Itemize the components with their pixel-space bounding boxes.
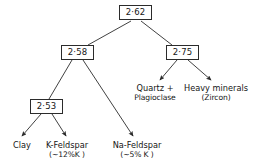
edge-right-to-heavy-minerals bbox=[188, 60, 211, 80]
node-root-2-62[interactable]: 2·62 bbox=[119, 5, 152, 20]
leaf-heavy-minerals-label: Heavy minerals bbox=[184, 83, 248, 93]
edge-root-to-left bbox=[88, 21, 131, 45]
edge-leftleft-to-clay bbox=[22, 114, 41, 136]
edge-right-to-quartz-plagioclase bbox=[160, 60, 177, 80]
leaf-na-feldspar[interactable]: Na-Feldspar (~5% K ) bbox=[104, 140, 170, 160]
leaf-k-feldspar-sublabel: (~12%K ) bbox=[36, 150, 98, 160]
leaf-k-feldspar-label: K-Feldspar bbox=[46, 140, 88, 150]
leaf-heavy-minerals-sublabel: (Zircon) bbox=[180, 93, 252, 103]
edge-root-to-right bbox=[141, 21, 172, 45]
leaf-quartz-plagioclase-label: Quartz + bbox=[137, 83, 174, 93]
edge-left-to-leftleft bbox=[49, 60, 72, 99]
leaf-heavy-minerals[interactable]: Heavy minerals (Zircon) bbox=[180, 83, 252, 103]
leaf-na-feldspar-label: Na-Feldspar bbox=[113, 140, 162, 150]
leaf-quartz-plagioclase[interactable]: Quartz + Plagioclase bbox=[122, 83, 188, 103]
node-right-2-75[interactable]: 2·75 bbox=[166, 45, 199, 60]
node-left-2-58[interactable]: 2·58 bbox=[61, 45, 94, 60]
leaf-k-feldspar[interactable]: K-Feldspar (~12%K ) bbox=[36, 140, 98, 160]
leaf-quartz-plagioclase-sublabel: Plagioclase bbox=[122, 93, 188, 103]
node-root-label: 2·62 bbox=[126, 8, 145, 17]
node-left-label: 2·58 bbox=[68, 48, 87, 57]
node-left-left-label: 2·53 bbox=[37, 102, 56, 111]
node-right-label: 2·75 bbox=[173, 48, 192, 57]
density-tree-diagram: 2·62 2·58 2·75 2·53 Clay K-Feldspar (~12… bbox=[0, 0, 254, 167]
node-left-left-2-53[interactable]: 2·53 bbox=[30, 99, 63, 114]
leaf-clay-label: Clay bbox=[13, 140, 31, 150]
edge-leftleft-to-k-feldspar bbox=[52, 114, 66, 136]
leaf-na-feldspar-sublabel: (~5% K ) bbox=[104, 150, 170, 160]
